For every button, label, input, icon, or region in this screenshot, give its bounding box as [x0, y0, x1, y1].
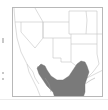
margin-mark [2, 72, 4, 74]
margin-mark [2, 78, 4, 80]
species-range [37, 61, 89, 97]
map-canvas [13, 8, 103, 97]
margin-mark [2, 38, 4, 43]
bottom-divider [0, 99, 108, 100]
range-map [12, 7, 103, 97]
